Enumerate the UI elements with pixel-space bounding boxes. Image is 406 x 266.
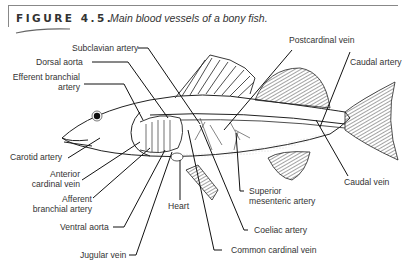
label-ventral-aorta: Ventral aorta [60, 223, 109, 233]
label-line-2: cardinal vein [20, 180, 80, 190]
caudal-fin [345, 82, 398, 160]
label-efferent-branchial-artery: Efferent branchial artery [6, 73, 80, 92]
label-common-cardinal-vein: Common cardinal vein [231, 246, 317, 256]
label-subclavian-artery: Subclavian artery [72, 44, 138, 54]
dorsal-fin-spiny [175, 55, 255, 98]
label-line-2: branchial artery [20, 205, 92, 215]
label-coeliac-artery: Coeliac artery [254, 226, 307, 236]
label-carotid-artery: Carotid artery [10, 153, 62, 163]
label-line-2: mesenteric artery [249, 197, 315, 207]
label-afferent-branchial-artery: Afferent branchial artery [20, 195, 92, 214]
label-heart: Heart [168, 202, 189, 212]
label-jugular-vein: Jugular vein [80, 251, 126, 261]
label-postcardinal-vein: Postcardinal vein [289, 36, 354, 46]
label-caudal-artery: Caudal artery [350, 58, 402, 68]
label-caudal-vein: Caudal vein [344, 178, 389, 188]
label-line-2: artery [6, 83, 80, 93]
label-superior-mesenteric-artery: Superior mesenteric artery [249, 187, 315, 206]
label-anterior-cardinal-vein: Anterior cardinal vein [20, 170, 80, 189]
label-dorsal-aorta: Dorsal aorta [36, 58, 83, 68]
anal-fin [268, 152, 310, 180]
